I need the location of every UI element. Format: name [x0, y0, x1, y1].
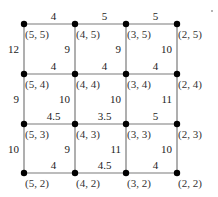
node-coordinate-label: (3, 2): [127, 177, 151, 190]
graph-node: [21, 121, 27, 127]
node-coordinate-label: (5, 3): [25, 128, 49, 141]
edge-weight-label: 10: [161, 143, 173, 155]
edge-weight-label: 9: [14, 93, 20, 105]
graph-node: [21, 71, 27, 77]
node-coordinate-label: (2, 4): [178, 78, 202, 91]
node-coordinate-label: (3, 5): [127, 28, 151, 41]
graph-node: [123, 121, 129, 127]
edge-weight-label: 5: [153, 10, 159, 22]
node-coordinate-label: (2, 3): [178, 128, 202, 141]
edge-weight-label: 4.5: [98, 159, 112, 171]
node-coordinate-label: (4, 3): [76, 128, 100, 141]
edge-weight-label: 4: [153, 60, 159, 72]
edge-weight-label: 4: [102, 60, 108, 72]
graph-node: [72, 71, 78, 77]
edge-weight-label: 9: [65, 143, 71, 155]
node-coordinate-label: (4, 4): [76, 78, 100, 91]
graph-node: [123, 71, 129, 77]
edge-weight-label: 10: [161, 43, 173, 55]
edge-weight-label: 4: [153, 159, 159, 171]
edge-weight-label: 5: [153, 110, 159, 122]
edge-weight-label: 11: [161, 93, 172, 105]
node-coordinate-label: (2, 2): [178, 177, 202, 190]
graph-node: [174, 121, 180, 127]
edge-weight-label: 4: [51, 10, 57, 22]
graph-node: [21, 170, 27, 176]
edges-layer: [24, 24, 177, 173]
graph-node: [72, 121, 78, 127]
nodes-layer: [21, 21, 180, 176]
graph-node: [72, 170, 78, 176]
edge-weight-label: 9: [65, 43, 71, 55]
edge-weight-label: 10: [110, 93, 122, 105]
edge-weight-label: 4.5: [47, 110, 61, 122]
edge-weight-label: 11: [110, 143, 121, 155]
graph-node: [21, 21, 27, 27]
grid-graph-diagram: 4554444.53.5544.5412991091010111091110 (…: [0, 0, 218, 197]
graph-node: [123, 170, 129, 176]
edge-weight-label: 5: [102, 10, 108, 22]
node-coordinate-label: (2, 5): [178, 28, 202, 41]
graph-node: [174, 170, 180, 176]
node-coordinate-label: (5, 4): [25, 78, 49, 91]
node-coordinate-label: (4, 5): [76, 28, 100, 41]
graph-node: [123, 21, 129, 27]
edge-weight-label: 4: [51, 159, 57, 171]
node-coordinate-label: (5, 2): [25, 177, 49, 190]
edge-weight-label: 9: [116, 43, 122, 55]
edge-weight-label: 10: [8, 143, 20, 155]
node-coordinate-label: (3, 4): [127, 78, 151, 91]
graph-node: [72, 21, 78, 27]
node-coordinate-label: (4, 2): [76, 177, 100, 190]
edge-weight-label: 3.5: [98, 110, 112, 122]
stray-mark: [211, 10, 213, 12]
edge-weight-label: 4: [51, 60, 57, 72]
edge-weight-label: 10: [59, 93, 71, 105]
graph-node: [174, 71, 180, 77]
node-coordinate-label: (3, 3): [127, 128, 151, 141]
node-coordinate-label: (5, 5): [25, 28, 49, 41]
edge-weight-label: 12: [8, 43, 19, 55]
graph-node: [174, 21, 180, 27]
